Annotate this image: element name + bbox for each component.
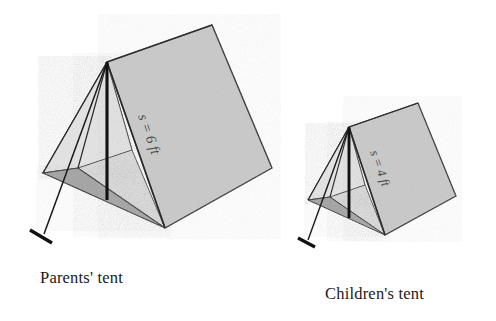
parents-tent-caption: Parents' tent	[40, 268, 123, 288]
children-tent-caption: Children's tent	[325, 284, 424, 304]
